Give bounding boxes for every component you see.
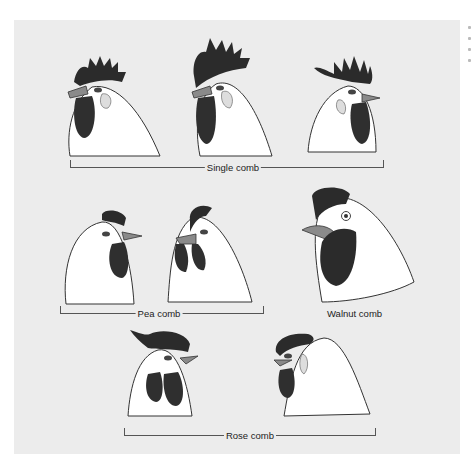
single-comb-head-1: [62, 52, 162, 156]
pea-comb-label: Pea comb: [136, 308, 183, 319]
single-comb-head-2: [190, 36, 280, 156]
single-comb-label: Single comb: [205, 162, 261, 173]
pea-comb-head-1: [62, 208, 146, 304]
walnut-comb-head: [302, 186, 414, 302]
rose-comb-label: Rose comb: [224, 430, 276, 441]
margin-text-fragment: [466, 18, 474, 78]
rose-comb-head-2: [274, 332, 370, 422]
rose-comb-head-1: [128, 326, 206, 422]
single-comb-head-3: [304, 52, 384, 156]
walnut-comb-label: Walnut comb: [327, 308, 382, 319]
pea-comb-head-2: [168, 202, 252, 302]
